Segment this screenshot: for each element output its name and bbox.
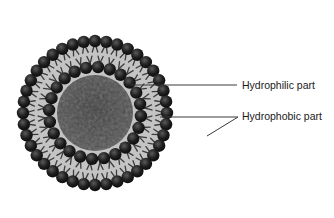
phospholipid-head: [45, 92, 57, 104]
phospholipid-head: [89, 179, 101, 191]
aqueous-core: [57, 75, 133, 151]
phospholipid-head: [68, 66, 80, 78]
hydrophilic-part-label: Hydrophilic part: [242, 79, 315, 91]
phospholipid-head: [43, 104, 55, 116]
phospholipid-head: [132, 122, 144, 134]
liposome-illustration: [0, 0, 334, 218]
phospholipid-head: [160, 96, 172, 108]
phospholipid-head: [80, 62, 92, 74]
phospholipid-head: [111, 175, 123, 187]
phospholipid-head: [135, 110, 147, 122]
hydrophobic-leader-line-lower: [207, 117, 238, 136]
phospholipid-head: [92, 61, 104, 73]
phospholipid-head: [100, 178, 112, 190]
hydrophobic-part-label: Hydrophobic part: [242, 110, 322, 122]
phospholipid-head: [78, 36, 90, 48]
phospholipid-head: [78, 178, 90, 190]
core-texture: [57, 75, 133, 151]
phospholipid-head: [100, 36, 112, 48]
phospholipid-head: [157, 85, 169, 97]
phospholipid-head: [134, 98, 146, 110]
phospholipid-head: [109, 148, 121, 160]
phospholipid-head: [98, 152, 110, 164]
liposome-diagram: Hydrophilic part Hydrophobic part: [0, 0, 334, 218]
phospholipid-head: [130, 86, 142, 98]
phospholipid-head: [160, 118, 172, 130]
phospholipid-head: [104, 63, 116, 75]
phospholipid-head: [18, 96, 30, 108]
phospholipid-head: [44, 116, 56, 128]
phospholipid-head: [17, 107, 29, 119]
phospholipid-head: [86, 153, 98, 165]
phospholipid-head: [20, 129, 32, 141]
phospholipid-head: [48, 127, 60, 139]
phospholipid-head: [67, 38, 79, 50]
phospholipid-head: [89, 35, 101, 47]
phospholipid-head: [18, 118, 30, 130]
phospholipid-head: [74, 150, 86, 162]
